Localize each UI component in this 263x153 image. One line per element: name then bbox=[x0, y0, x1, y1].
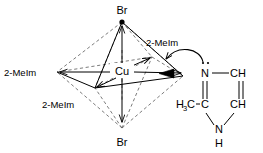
atom-label-n1-hydrogen: H bbox=[215, 137, 223, 149]
lone-pair-donation-arrow-icon bbox=[166, 49, 203, 62]
label-br-bottom: Br bbox=[117, 136, 128, 148]
label-cu-metal-center: Cu bbox=[115, 65, 129, 77]
label-ligand-left: 2-MeIm bbox=[4, 67, 36, 78]
lone-pair-dot-left-icon bbox=[202, 62, 204, 64]
chemical-structure-figure: Br Br Cu 2-MeIm 2-MeIm 2-MeIm N CH CH N … bbox=[0, 0, 263, 153]
atom-label-methyl: H 3 C bbox=[176, 98, 195, 113]
methyl-c: C bbox=[187, 98, 195, 110]
atom-label-n1: N bbox=[215, 123, 223, 135]
coordinate-bond-wedge-icon bbox=[159, 69, 174, 78]
atom-label-c2: C bbox=[201, 98, 209, 110]
label-ligand-upper-right: 2-MeIm bbox=[146, 37, 178, 48]
ligand-2-methylimidazole: N CH CH N H C H 3 C bbox=[176, 62, 246, 149]
bond-n1-c2 bbox=[206, 113, 214, 125]
octahedron-front-edges bbox=[57, 22, 183, 88]
front-edge-brtop-liglowerleft bbox=[95, 22, 122, 88]
lone-pair-dot-right-icon bbox=[207, 62, 209, 64]
bond-cu-ligand-upperright bbox=[132, 58, 150, 66]
label-br-top: Br bbox=[117, 4, 128, 16]
atom-label-n3: N bbox=[201, 67, 209, 79]
bond-c5-n1 bbox=[224, 113, 234, 125]
structure-canvas: Br Br Cu 2-MeIm 2-MeIm 2-MeIm N CH CH N … bbox=[0, 0, 263, 153]
edge-brbot-ligright bbox=[122, 76, 183, 128]
front-edge-ligleft-liglowerleft bbox=[57, 72, 95, 88]
vertex-dot-br-top bbox=[119, 19, 124, 24]
atom-label-c4h: CH bbox=[230, 67, 246, 79]
atom-label-c5h: CH bbox=[230, 98, 246, 110]
label-ligand-lower-left: 2-MeIm bbox=[42, 99, 74, 110]
